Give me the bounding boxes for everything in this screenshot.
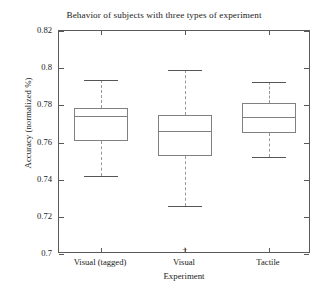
x-tick-mark — [269, 248, 270, 252]
y-tick-mark-right — [304, 68, 309, 69]
x-axis-tick-label: Visual (tagged) — [74, 257, 127, 267]
lower-whisker — [269, 133, 270, 157]
y-tick-mark-right — [304, 143, 309, 144]
upper-whisker — [101, 80, 102, 108]
y-tick-mark-right — [304, 254, 309, 255]
y-axis-tick-label: 0.82 — [0, 25, 52, 35]
lower-whisker-cap — [252, 157, 285, 158]
y-tick-mark — [59, 68, 64, 69]
x-axis-tick-label: Tactile — [256, 257, 279, 267]
y-tick-mark-right — [304, 31, 309, 32]
median-line — [158, 131, 212, 132]
y-axis-tick-label: 0.72 — [0, 211, 52, 221]
upper-whisker-cap — [84, 80, 117, 81]
y-tick-mark — [59, 31, 64, 32]
upper-whisker-cap — [252, 82, 285, 83]
median-line — [242, 117, 296, 118]
chart-title: Behavior of subjects with three types of… — [0, 10, 328, 20]
y-tick-mark-right — [304, 105, 309, 106]
x-tick-mark-top — [269, 31, 270, 35]
x-tick-mark-top — [101, 31, 102, 35]
x-axis-title: Experiment — [58, 271, 310, 281]
lower-whisker-cap — [84, 176, 117, 177]
upper-whisker-cap — [168, 70, 201, 71]
lower-whisker — [185, 156, 186, 206]
y-tick-mark-right — [304, 180, 309, 181]
plot-area: + — [58, 30, 310, 253]
box-iqr — [158, 115, 212, 156]
upper-whisker — [185, 70, 186, 115]
lower-whisker-cap — [168, 206, 201, 207]
y-axis-title: Accuracy (normalized %) — [23, 43, 33, 203]
boxplot-figure: Behavior of subjects with three types of… — [0, 0, 328, 295]
x-tick-mark — [101, 248, 102, 252]
y-tick-mark — [59, 254, 64, 255]
upper-whisker — [269, 82, 270, 103]
y-tick-mark — [59, 105, 64, 106]
x-axis-tick-label: Visual — [173, 257, 195, 267]
lower-whisker — [101, 141, 102, 176]
box-iqr — [74, 108, 128, 141]
y-axis-tick-label: 0.7 — [0, 248, 52, 258]
y-tick-mark-right — [304, 217, 309, 218]
outlier-marker: + — [182, 245, 187, 254]
y-tick-mark — [59, 217, 64, 218]
y-tick-mark — [59, 180, 64, 181]
median-line — [74, 116, 128, 117]
x-tick-mark-top — [185, 31, 186, 35]
y-tick-mark — [59, 143, 64, 144]
